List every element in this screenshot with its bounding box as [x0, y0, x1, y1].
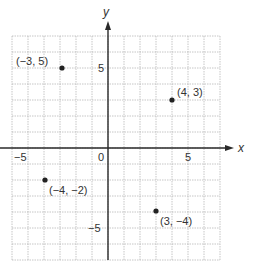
- point-label: (4, 3): [177, 86, 203, 98]
- y-tick-neg5: −5: [88, 222, 101, 234]
- y-axis-label: y: [102, 5, 110, 19]
- point-label: (−3, 5): [16, 55, 48, 67]
- point-marker: [59, 65, 64, 70]
- y-tick-pos5: 5: [98, 62, 104, 74]
- point-3: (3, −4): [153, 208, 192, 227]
- y-axis-arrow-icon: [105, 21, 111, 30]
- point-marker: [169, 97, 174, 102]
- x-tick-neg5: −5: [14, 151, 27, 163]
- x-tick-pos5: 5: [185, 151, 191, 163]
- coordinate-plane: x y 0 −5 5 5 −5 (−3, 5) (4, 3) (−4, −2) …: [0, 0, 253, 272]
- origin-label: 0: [98, 151, 104, 163]
- point-label: (−4, −2): [49, 184, 88, 196]
- x-axis-arrow-icon: [225, 145, 234, 151]
- point-marker: [42, 177, 47, 182]
- x-axis-label: x: [237, 141, 245, 155]
- point-label: (3, −4): [160, 215, 192, 227]
- point-marker: [153, 208, 158, 213]
